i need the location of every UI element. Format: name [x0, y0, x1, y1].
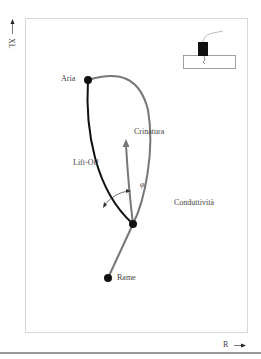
- point-conduttivita: [129, 220, 137, 228]
- rame-line: [108, 224, 133, 278]
- bottom-divider: [0, 352, 261, 354]
- label-lift-off: Lift-Off: [73, 158, 99, 167]
- label-crinatura: Crinatura: [134, 127, 164, 136]
- label-aria: Aria: [61, 74, 75, 83]
- y-axis-arrow-icon: [11, 19, 15, 34]
- impedance-diagram: [0, 0, 261, 359]
- label-phi: φ: [140, 180, 144, 189]
- label-rame: Rame: [117, 273, 136, 282]
- label-conduttivita: Conduttività: [174, 198, 214, 207]
- point-rame: [104, 274, 112, 282]
- x-axis-label: R: [223, 340, 228, 349]
- point-aria: [84, 76, 92, 84]
- probe-sensor-icon: [184, 31, 236, 69]
- gray-curve: [88, 76, 150, 224]
- x-axis-arrow-icon: [234, 344, 246, 348]
- crinatura-vector: [123, 139, 134, 224]
- y-axis-label: XL: [7, 38, 16, 49]
